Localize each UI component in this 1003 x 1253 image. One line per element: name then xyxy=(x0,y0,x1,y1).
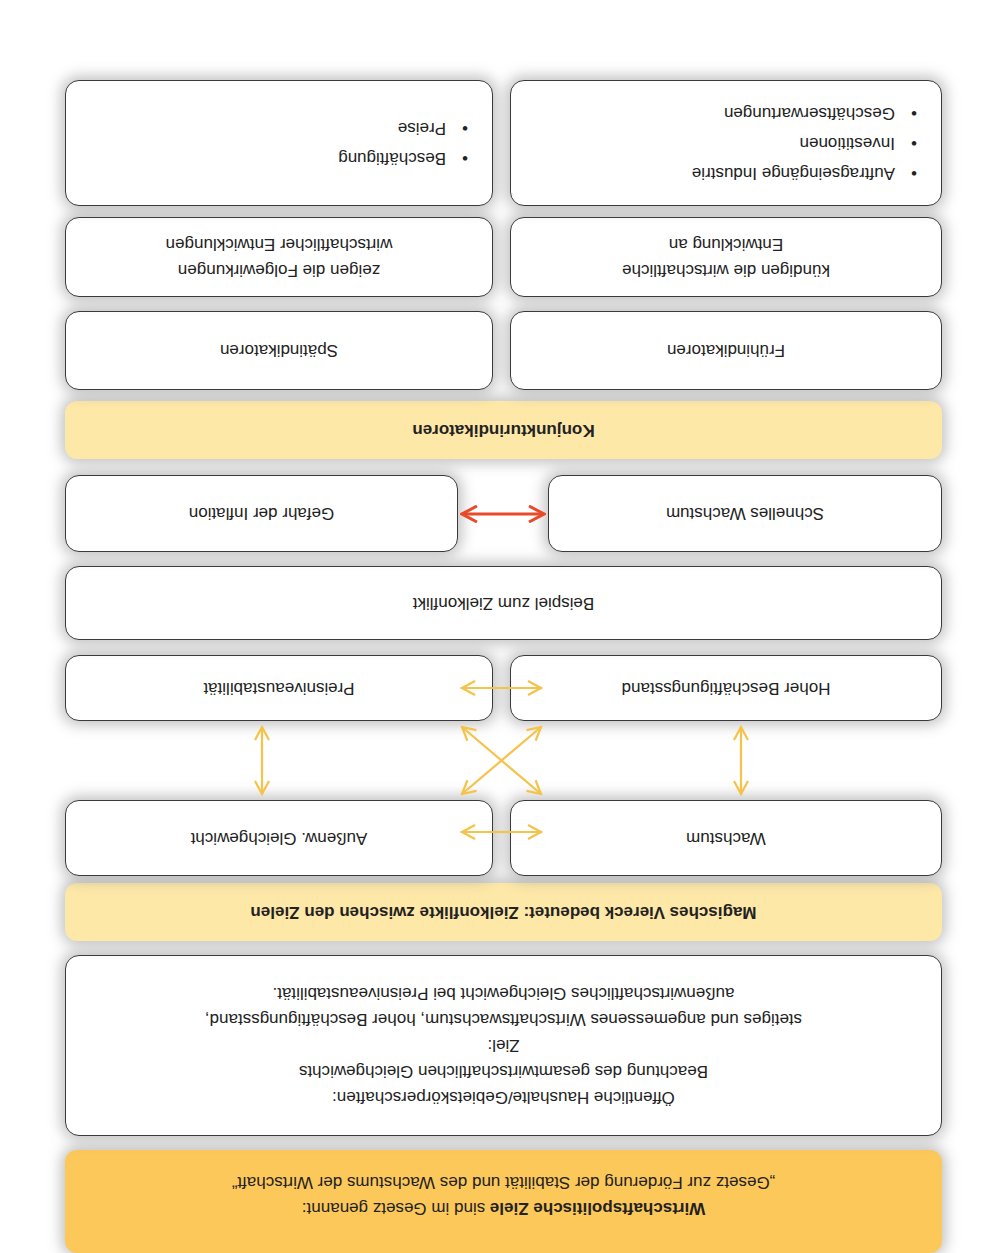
magic-square-title: Magisches Viereck bedeutet: Zielkonflikt… xyxy=(250,899,756,925)
public-budgets-line-2: Beachtung des gesamtwirtschaftlichen Gle… xyxy=(299,1059,708,1085)
public-budgets-line-5: außenwirtschaftliches Gleichgewicht bei … xyxy=(272,981,734,1007)
goal-beschaeftigung: Hoher Beschäftigungsstand xyxy=(510,655,942,721)
late-indicators-label: Spätindikatoren xyxy=(220,339,338,363)
list-item: Geschäftserwartungen xyxy=(692,98,917,128)
conflict-right-box: Gefahr der Inflation xyxy=(65,475,458,552)
list-item: Investitionen xyxy=(692,128,917,158)
header-title-rest: sind im Gesetz genannt: xyxy=(302,1200,490,1219)
conflict-example-title: Beispiel zum Zielkonflikt xyxy=(413,591,594,615)
early-indicators-desc-box: kündigen die wirtschaftliche Entwicklung… xyxy=(510,217,942,297)
late-indicators-list-box: Beschäftigung Preise xyxy=(65,80,493,206)
goal-preisniveau-label: Preisniveaustabilität xyxy=(203,676,354,700)
conflict-left-label: Schnelles Wachstum xyxy=(666,502,824,526)
list-item: Auftragseingänge Industrie xyxy=(692,158,917,188)
public-budgets-line-3: Ziel: xyxy=(487,1033,519,1059)
public-budgets-line-4: stetiges und angemessenes Wirtschaftswac… xyxy=(205,1007,802,1033)
arrow-diagonal-1 xyxy=(462,727,541,794)
goal-aussenwirtschaft-label: Außenw. Gleichgewicht xyxy=(191,826,368,850)
late-indicators-box: Spätindikatoren xyxy=(65,311,493,390)
early-indicators-box: Frühindikatoren xyxy=(510,311,942,390)
list-item: Beschäftigung xyxy=(338,143,468,173)
conflict-left-box: Schnelles Wachstum xyxy=(548,475,942,552)
public-budgets-box: Öffentliche Haushalte/Gebietskörperschaf… xyxy=(65,955,942,1136)
list-item: Preise xyxy=(338,113,468,143)
early-indicators-label: Frühindikatoren xyxy=(667,339,785,363)
goal-wachstum-label: Wachstum xyxy=(686,826,766,850)
conflict-example-box: Beispiel zum Zielkonflikt xyxy=(65,566,942,640)
early-indicators-list: Auftragseingänge Industrie Investitionen… xyxy=(692,98,941,188)
indicators-title: Konjunkturindikatoren xyxy=(412,417,594,443)
late-indicators-list: Beschäftigung Preise xyxy=(338,113,492,173)
goal-wachstum: Wachstum xyxy=(510,800,942,876)
late-desc-line-2: wirtschaftlicher Entwicklungen xyxy=(166,231,393,257)
late-indicators-desc-box: zeigen die Folgewirkungen wirtschaftlich… xyxy=(65,217,493,297)
indicators-banner: Konjunkturindikatoren xyxy=(65,401,942,459)
law-name: „Gesetz zur Förderung der Stabilität und… xyxy=(232,1170,776,1196)
public-budgets-line-1: Öffentliche Haushalte/Gebietskörperschaf… xyxy=(332,1085,675,1111)
goal-preisniveau: Preisniveaustabilität xyxy=(65,655,493,721)
goal-aussenwirtschaft: Außenw. Gleichgewicht xyxy=(65,800,493,876)
goal-beschaeftigung-label: Hoher Beschäftigungsstand xyxy=(622,676,831,700)
early-indicators-list-box: Auftragseingänge Industrie Investitionen… xyxy=(510,80,942,206)
magic-square-banner: Magisches Viereck bedeutet: Zielkonflikt… xyxy=(65,883,942,941)
late-desc-line-1: zeigen die Folgewirkungen xyxy=(178,257,380,283)
conflict-right-label: Gefahr der Inflation xyxy=(189,502,335,526)
early-desc-line-2: Entwicklung an xyxy=(669,231,783,257)
header-banner: Wirtschaftspolitische Ziele sind im Gese… xyxy=(65,1150,942,1253)
header-title: Wirtschaftspolitische Ziele sind im Gese… xyxy=(302,1196,705,1222)
early-desc-line-1: kündigen die wirtschaftliche xyxy=(622,257,830,283)
arrow-diagonal-2 xyxy=(462,727,541,794)
header-title-bold: Wirtschaftspolitische Ziele xyxy=(490,1200,705,1219)
